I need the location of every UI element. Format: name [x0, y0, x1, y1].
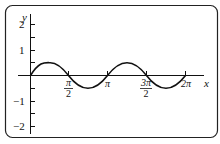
y-tick-label-minus-1: −1 [13, 95, 25, 107]
svg-text:2: 2 [66, 88, 71, 99]
graph-card: y 2 1 −1 −2 π 2 π 3π 2 2π x [0, 0, 220, 144]
x-tick-label-3pi-over-2: 3π 2 [140, 77, 152, 99]
y-tick-label-1: 1 [19, 44, 25, 56]
y-tick-label-2: 2 [19, 18, 25, 30]
x-ticks [69, 71, 186, 76]
x-axis-label: x [203, 77, 209, 89]
y-tick-label-minus-2: −2 [13, 120, 25, 132]
svg-text:2: 2 [144, 88, 149, 99]
x-tick-label-2pi: 2π [181, 78, 192, 89]
x-tick-label-pi: π [105, 78, 111, 89]
svg-text:3π: 3π [140, 77, 152, 88]
sine-graph: y 2 1 −1 −2 π 2 π 3π 2 2π x [0, 0, 220, 144]
